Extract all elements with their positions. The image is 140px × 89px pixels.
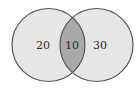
right-only-value: 30 — [93, 39, 107, 52]
left-only-value: 20 — [36, 39, 50, 52]
intersection-value: 10 — [65, 39, 79, 52]
venn-diagram: 20 10 30 — [0, 0, 140, 89]
